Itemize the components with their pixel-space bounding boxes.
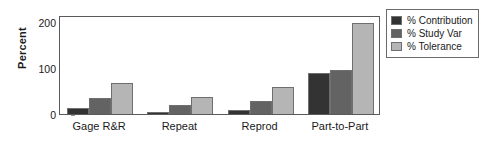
bar[interactable]	[111, 83, 133, 114]
bar[interactable]	[330, 70, 352, 114]
legend-swatch-icon	[391, 29, 402, 38]
legend-swatch-icon	[391, 16, 402, 25]
legend-item-label: % Tolerance	[407, 42, 462, 52]
bar-group	[140, 17, 220, 114]
bar-group	[60, 17, 140, 114]
x-axis-category-label: Part-to-Part	[311, 120, 368, 132]
y-axis-tick-label: 200	[22, 18, 56, 29]
legend-item[interactable]: % Study Var	[391, 27, 473, 40]
bar-group	[301, 17, 381, 114]
components-of-variation-chart: Percent 0100200 Gage R&RRepeatReprodPart…	[0, 0, 497, 152]
legend-item[interactable]: % Contribution	[391, 14, 473, 27]
bar[interactable]	[89, 98, 111, 114]
legend-item[interactable]: % Tolerance	[391, 40, 473, 53]
y-axis-tick-labels: 0100200	[16, 0, 56, 152]
y-axis-tick-label: 0	[22, 110, 56, 121]
bar-group	[221, 17, 301, 114]
bar[interactable]	[191, 97, 213, 114]
legend-swatch-icon	[391, 42, 402, 51]
y-axis-tick-label: 100	[22, 64, 56, 75]
plot-area	[59, 16, 380, 115]
bar[interactable]	[352, 23, 374, 114]
x-axis-category-label: Repeat	[162, 120, 197, 132]
x-axis-category-label: Reprod	[242, 120, 278, 132]
legend-item-label: % Study Var	[407, 29, 462, 39]
bar[interactable]	[308, 73, 330, 114]
bars-layer	[60, 17, 379, 114]
legend-item-label: % Contribution	[407, 16, 473, 26]
bar[interactable]	[147, 112, 169, 114]
bar[interactable]	[250, 101, 272, 114]
bar[interactable]	[272, 87, 294, 114]
x-axis-category-label: Gage R&R	[73, 120, 126, 132]
bar[interactable]	[67, 108, 89, 114]
bar[interactable]	[228, 110, 250, 114]
chart-legend: % Contribution% Study Var% Tolerance	[386, 9, 479, 58]
bar[interactable]	[169, 105, 191, 114]
